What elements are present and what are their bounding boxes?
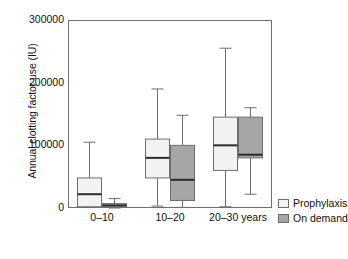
box-iqr <box>78 178 102 207</box>
boxplot-prophylaxis-1 <box>146 89 170 206</box>
legend-label: Prophylaxis <box>293 198 347 209</box>
legend-item[interactable]: Prophylaxis <box>278 196 337 210</box>
y-axis-tick-labels: 3000002000001000000 <box>0 0 64 259</box>
box-iqr <box>214 117 238 170</box>
boxplot-canvas <box>68 20 272 208</box>
y-tick-label: 200000 <box>8 77 64 88</box>
legend-item[interactable]: On demand <box>278 211 337 225</box>
boxplot-prophylaxis-2 <box>214 48 238 207</box>
x-tick-label: 20–30 years <box>198 212 278 223</box>
box-iqr <box>239 117 263 158</box>
y-tick-label: 300000 <box>8 14 64 25</box>
legend-label: On demand <box>293 213 348 224</box>
legend-swatch-icon <box>278 199 289 208</box>
boxplot-prophylaxis-0 <box>78 142 102 207</box>
box-iqr <box>171 145 195 200</box>
y-tick-label: 100000 <box>8 139 64 150</box>
boxplot-on-demand-2 <box>239 108 263 194</box>
boxplot-on-demand-1 <box>171 115 195 207</box>
y-tick-label: 0 <box>8 202 64 213</box>
legend-swatch-icon <box>278 214 289 223</box>
chart-legend: ProphylaxisOn demand <box>278 196 337 226</box>
boxplot-on-demand-0 <box>103 199 127 208</box>
